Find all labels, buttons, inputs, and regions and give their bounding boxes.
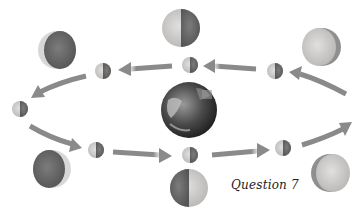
orbit-moon-top-center <box>182 57 198 73</box>
orbit-moons <box>12 57 291 163</box>
arrowhead-icon <box>257 143 270 158</box>
question-caption: Question 7 <box>231 178 299 192</box>
phase-view-top-left <box>38 31 76 69</box>
arrow-icon <box>30 126 72 144</box>
earth <box>161 82 217 138</box>
phase-view-top-right <box>302 28 341 66</box>
phase-view-top-center <box>162 9 200 47</box>
orbit-moon-left <box>12 101 28 117</box>
arrowhead-icon <box>118 62 131 76</box>
arrow-icon <box>130 66 172 69</box>
moon-phase-diagram <box>0 0 363 208</box>
arrow-icon <box>302 128 345 145</box>
arrow-icon <box>40 76 86 92</box>
orbit-moon-bottom-right <box>275 140 291 156</box>
orbit-moon-bottom-left <box>88 142 104 158</box>
arrow-icon <box>212 151 258 155</box>
phase-view-bottom-left <box>33 150 71 188</box>
arrowhead-icon <box>289 66 302 80</box>
orbit-moon-bottom-center <box>182 147 198 163</box>
arrowhead-icon <box>159 148 172 163</box>
arrow-icon <box>214 66 256 69</box>
arrow-icon <box>113 152 160 155</box>
orbit-moon-top-right <box>267 63 283 79</box>
orbit-moon-top-left <box>95 63 111 79</box>
arrowhead-icon <box>69 138 82 152</box>
arrow-icon <box>300 74 346 94</box>
phase-view-bottom-center <box>170 169 208 207</box>
arrowhead-icon <box>203 59 215 73</box>
phase-view-bottom-right <box>311 154 350 192</box>
